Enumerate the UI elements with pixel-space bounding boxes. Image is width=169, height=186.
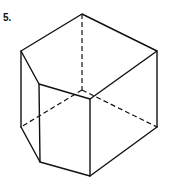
hexagonal-prism-diagram [0,0,169,186]
bottom-face-visible-outline [21,127,157,176]
hidden-edge-bottom-right [82,90,157,127]
top-face-outline [21,14,157,99]
hidden-edge-bottom-left [21,90,82,127]
edge-inner-left-vertical [39,84,40,162]
